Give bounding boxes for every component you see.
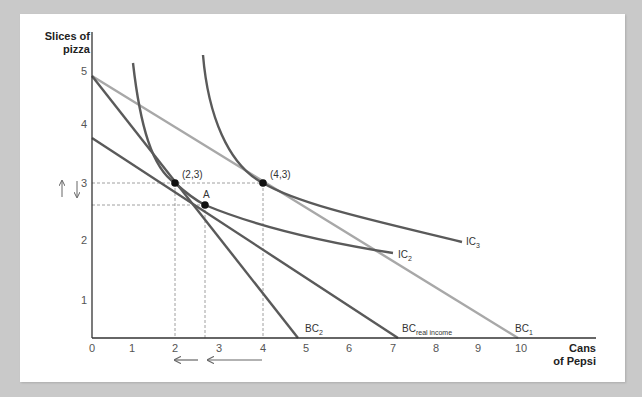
svg-text:9: 9 [475,342,481,354]
svg-text:4: 4 [81,118,87,130]
label-bc2: BC2 [305,323,323,336]
point-2-3 [171,179,179,187]
svg-text:2: 2 [81,234,87,246]
label-a: A [203,189,210,200]
label-bc-real-income: BCreal income [402,323,452,336]
label-ic2: IC2 [398,249,412,262]
ic2-curve [133,63,393,253]
bc-real-income-line [92,138,398,338]
svg-text:5: 5 [81,65,87,77]
svg-text:2: 2 [172,342,178,354]
y-axis-title-line1: Slices of [45,30,91,42]
label-4-3: (4,3) [270,169,291,180]
up-down-arrows [62,181,77,197]
label-2-3: (2,3) [182,169,203,180]
point-4-3 [259,179,267,187]
x-tick-labels: 0 1 2 3 4 5 6 7 8 9 10 [89,342,527,354]
svg-text:1: 1 [129,342,135,354]
svg-text:0: 0 [89,342,95,354]
svg-text:3: 3 [216,342,222,354]
y-axis-title-line2: pizza [63,43,91,55]
svg-text:5: 5 [303,342,309,354]
ic3-curve [203,55,462,242]
svg-text:1: 1 [81,294,87,306]
x-axis-title-line1: Cans [569,342,596,354]
svg-text:8: 8 [433,342,439,354]
svg-text:6: 6 [346,342,352,354]
svg-text:4: 4 [260,342,266,354]
label-bc1: BC1 [515,323,533,336]
svg-text:3: 3 [81,177,87,189]
svg-text:7: 7 [390,342,396,354]
chart-svg: (2,3) (4,3) A IC2 IC3 BC2 BCreal income … [0,0,642,397]
y-tick-labels: 1 2 3 4 5 [81,65,87,306]
x-axis-title-line2: of Pepsi [553,355,596,367]
label-ic3: IC3 [466,236,480,249]
bc1-line [92,76,518,338]
svg-text:10: 10 [515,342,527,354]
bc2-line [92,76,298,338]
point-a [201,201,209,209]
